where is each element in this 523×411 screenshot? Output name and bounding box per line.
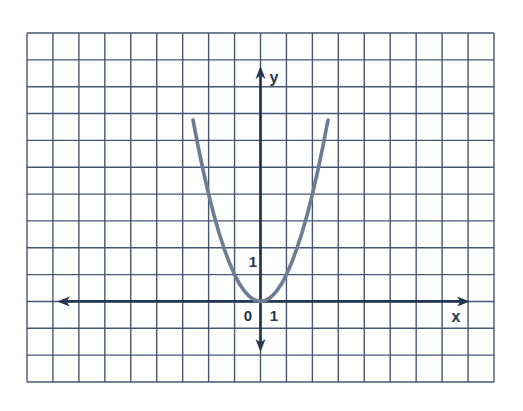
y-tick-1-label: 1 — [249, 253, 257, 270]
x-axis-label: x — [452, 308, 461, 325]
x-tick-1-label: 1 — [270, 307, 278, 324]
origin-label: 0 — [244, 307, 252, 324]
graph-figure: y x 0 1 1 — [0, 0, 523, 411]
axes — [57, 66, 470, 352]
y-axis-label: y — [270, 69, 279, 86]
graph-canvas: y x 0 1 1 — [0, 0, 523, 411]
